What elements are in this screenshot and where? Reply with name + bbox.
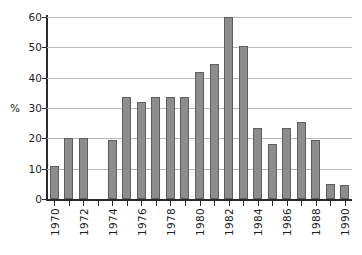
x-axis-tick xyxy=(330,200,331,206)
x-axis-tick-label: 1972 xyxy=(78,208,90,236)
x-axis-tick xyxy=(98,200,99,206)
y-axis-tick-label: 0 xyxy=(35,193,42,205)
x-axis-tick xyxy=(112,200,113,206)
bar xyxy=(311,140,320,199)
x-axis-tick xyxy=(229,200,230,206)
y-axis-tick-label: 40 xyxy=(28,72,42,84)
x-axis-tick-label: 1990 xyxy=(339,208,351,236)
plot-area xyxy=(47,17,352,199)
bar xyxy=(268,144,277,199)
bar xyxy=(151,97,160,199)
y-axis-tick xyxy=(42,199,47,200)
y-axis-tick-label: 30 xyxy=(28,102,42,114)
x-axis-tick xyxy=(272,200,273,206)
bar xyxy=(50,166,59,199)
x-axis-tick xyxy=(127,200,128,206)
x-axis-tick-label: 1988 xyxy=(310,208,322,236)
x-axis-tick xyxy=(141,200,142,206)
bar xyxy=(122,97,131,199)
bar xyxy=(239,46,248,199)
x-axis-tick xyxy=(345,200,346,206)
x-axis-tick xyxy=(156,200,157,206)
y-axis-unit-label: % xyxy=(10,102,20,114)
x-axis-tick-label: 1978 xyxy=(165,208,177,236)
x-axis-tick-label: 1982 xyxy=(223,208,235,236)
bar xyxy=(108,140,117,199)
x-axis-tick xyxy=(301,200,302,206)
x-axis-tick xyxy=(200,200,201,206)
x-axis-tick xyxy=(316,200,317,206)
bar xyxy=(195,72,204,199)
bar xyxy=(79,138,88,199)
y-axis-tick-label: 10 xyxy=(28,163,42,175)
x-axis-tick xyxy=(243,200,244,206)
x-axis-tick xyxy=(185,200,186,206)
x-axis-line xyxy=(46,199,352,201)
x-axis-tick xyxy=(170,200,171,206)
x-axis-tick-label: 1980 xyxy=(194,208,206,236)
y-axis-tick-label: 20 xyxy=(28,132,42,144)
bar xyxy=(210,64,219,199)
x-axis-tick-label: 1976 xyxy=(136,208,148,236)
x-axis-tick xyxy=(214,200,215,206)
bar xyxy=(64,138,73,199)
bar xyxy=(282,128,291,199)
x-axis-tick xyxy=(83,200,84,206)
bar xyxy=(180,97,189,199)
gridline xyxy=(47,17,352,18)
bar xyxy=(297,122,306,199)
x-axis-tick xyxy=(287,200,288,206)
bar xyxy=(166,97,175,199)
bar-chart: % 0102030405060 197019721974197619781980… xyxy=(0,0,362,255)
x-axis-tick-label: 1986 xyxy=(281,208,293,236)
y-axis-tick-label: 50 xyxy=(28,41,42,53)
x-axis-tick xyxy=(54,200,55,206)
bar xyxy=(224,17,233,199)
x-axis-tick-label: 1974 xyxy=(107,208,119,236)
bar xyxy=(340,185,349,199)
bar xyxy=(253,128,262,199)
bar xyxy=(137,102,146,199)
x-axis-tick-label: 1984 xyxy=(252,208,264,236)
x-axis-tick xyxy=(69,200,70,206)
bar xyxy=(326,184,335,199)
y-axis-tick-label: 60 xyxy=(28,11,42,23)
x-axis-tick xyxy=(258,200,259,206)
gridline xyxy=(47,47,352,48)
x-axis-tick-label: 1970 xyxy=(49,208,61,236)
